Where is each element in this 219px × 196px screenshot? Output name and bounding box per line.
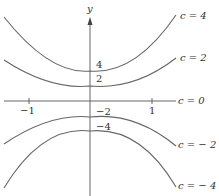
curve-label-c-neg2: c = − 2: [178, 140, 216, 150]
tick-label-pos1: 1: [149, 106, 155, 116]
curve-label-c-neg4: c = − 4: [178, 181, 216, 191]
curve-label-c-2: c = 2: [180, 53, 207, 63]
vertex-label-neg4: −4: [96, 122, 111, 132]
curve-label-c-4: c = 4: [180, 11, 207, 21]
vertex-label-neg2: −2: [96, 107, 111, 117]
curve-label-c-0: c = 0: [178, 96, 205, 106]
tick-label-neg1: −1: [20, 106, 35, 116]
y-axis-arrow-icon: [88, 17, 93, 25]
vertex-label-4: 4: [96, 60, 102, 70]
vertex-label-2: 2: [96, 74, 102, 84]
y-axis-label: y: [87, 4, 93, 14]
